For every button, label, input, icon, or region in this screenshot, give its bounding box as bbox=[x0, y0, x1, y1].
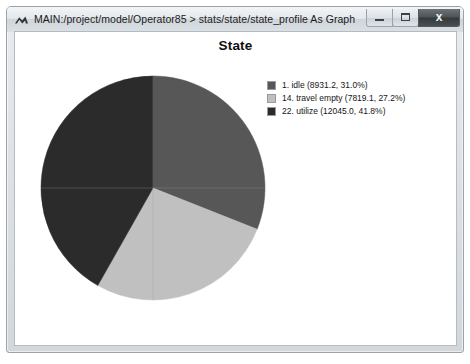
chart-legend: 1. idle (8931.2, 31.0%)14. travel empty … bbox=[267, 80, 447, 119]
legend-color-swatch bbox=[267, 81, 276, 90]
legend-color-swatch bbox=[267, 94, 276, 103]
chart-title: State bbox=[15, 38, 456, 53]
minimize-icon bbox=[375, 19, 384, 21]
pie-chart-svg bbox=[35, 70, 271, 306]
title-bar[interactable]: MAIN:/project/model/Operator85 > stats/s… bbox=[7, 7, 463, 32]
minimize-button[interactable] bbox=[366, 9, 393, 27]
legend-item-label: 1. idle (8931.2, 31.0%) bbox=[282, 81, 368, 90]
pie-chart bbox=[35, 70, 271, 306]
maximize-button[interactable] bbox=[392, 9, 419, 27]
legend-color-swatch bbox=[267, 107, 276, 116]
close-button[interactable]: x bbox=[418, 9, 460, 27]
window-title: MAIN:/project/model/Operator85 > stats/s… bbox=[34, 14, 355, 25]
chevron-mountain-icon bbox=[14, 13, 29, 27]
legend-item[interactable]: 14. travel empty (7819.1, 27.2%) bbox=[267, 93, 447, 104]
legend-item[interactable]: 22. utilize (12045.0, 41.8%) bbox=[267, 106, 447, 117]
legend-item[interactable]: 1. idle (8931.2, 31.0%) bbox=[267, 80, 447, 91]
close-icon: x bbox=[436, 11, 443, 23]
maximize-icon bbox=[401, 13, 410, 21]
window-controls: x bbox=[367, 8, 460, 27]
legend-item-label: 22. utilize (12045.0, 41.8%) bbox=[282, 107, 385, 116]
legend-item-label: 14. travel empty (7819.1, 27.2%) bbox=[282, 94, 405, 103]
application-window: MAIN:/project/model/Operator85 > stats/s… bbox=[6, 6, 464, 353]
chart-client-area: State 1. idle (8931.2, 31.0%)14. travel … bbox=[14, 31, 457, 346]
